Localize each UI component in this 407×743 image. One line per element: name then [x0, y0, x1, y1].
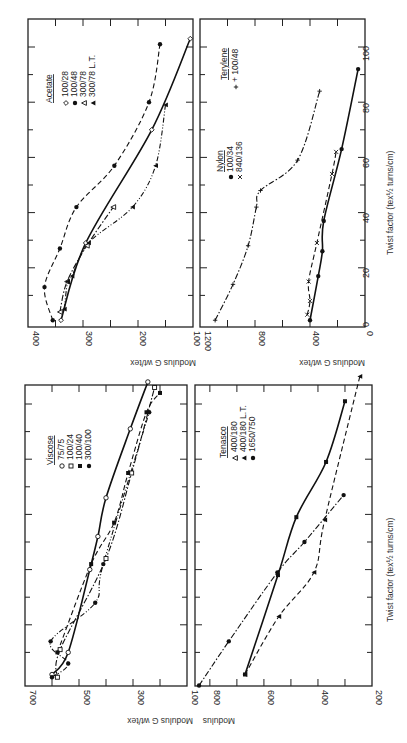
nylon-ytick: 400 — [311, 331, 321, 346]
data-point-marker — [104, 496, 108, 500]
legend-marker-icon — [229, 175, 233, 179]
series-curve — [56, 387, 155, 677]
data-point-marker — [101, 562, 105, 566]
nylon-legend: Nylon 100/34 840/136 Terylene + 100/48 — [215, 48, 244, 172]
tenasco-xlabel: Twist factor (tex½ turns/cm) — [385, 517, 395, 622]
legend-entry: 300/78 L.T. — [87, 55, 97, 97]
legend-marker-icon — [82, 101, 87, 106]
data-point-marker — [243, 672, 247, 676]
data-point-marker — [320, 249, 324, 253]
data-point-marker — [147, 410, 151, 414]
legend-marker-icon — [91, 101, 96, 106]
data-point-marker — [58, 310, 63, 315]
legend-title: Tenasco — [218, 426, 228, 458]
data-point-marker — [246, 244, 250, 248]
data-point-marker — [322, 219, 326, 223]
viscose-ytick: 700 — [28, 690, 38, 705]
acetate-ylabel: Modulus G wt/tex — [130, 358, 196, 368]
tenasco-ytick: 200 — [374, 690, 384, 705]
legend-marker-icon — [238, 175, 242, 179]
data-point-marker — [50, 675, 54, 679]
nylon-ylabel: Modulus G wt/tex — [299, 358, 365, 368]
acetate-ytick: 100 — [192, 331, 202, 346]
tenasco-ytick: 600 — [266, 690, 276, 705]
legend-marker-icon — [233, 456, 238, 461]
data-point-marker — [146, 380, 150, 384]
tenasco-ytick: 800 — [212, 690, 222, 705]
data-point-marker — [96, 534, 100, 538]
nylon-ytick: 800 — [257, 331, 267, 346]
data-point-marker — [302, 540, 306, 544]
axis-ticks — [25, 19, 372, 686]
data-point-marker — [213, 318, 217, 322]
data-point-marker — [89, 562, 93, 566]
viscose-legend: Viscose 75/75 100/24 100/40 300/100 — [45, 429, 93, 465]
data-point-marker — [343, 399, 347, 403]
legend-marker-icon — [69, 464, 73, 468]
viscose-ytick: 100 — [190, 690, 200, 705]
nylon-xtick: 80 — [361, 103, 371, 113]
tenasco-ylabel: Modulus — [203, 716, 235, 726]
legend-marker-icon — [78, 464, 82, 468]
nylon-xlabel: Twist factor (tex½ turns/cm) — [385, 150, 395, 255]
legend-title: Nylon — [215, 150, 225, 172]
acetate-panel-frame — [28, 19, 193, 327]
data-point-marker — [316, 274, 320, 278]
data-point-marker — [55, 675, 59, 679]
data-point-marker — [74, 205, 78, 209]
legend-marker-icon — [242, 456, 247, 461]
data-point-marker — [308, 318, 312, 322]
data-point-marker — [147, 100, 151, 104]
data-point-marker — [294, 515, 298, 519]
data-point-marker — [356, 67, 360, 71]
data-point-marker — [312, 570, 317, 575]
tenasco-legend: Tenasco 400/180 400/180 L.T. 1650/750 — [218, 405, 257, 458]
acetate-ytick: 200 — [138, 331, 148, 346]
viscose-ylabel: Modulus G wt/tex — [127, 716, 193, 726]
legend-entry: 300/100 — [83, 429, 93, 460]
viscose-ytick: 500 — [82, 690, 92, 705]
legend-title: Acetate — [44, 74, 54, 103]
legend-marker-icon — [73, 101, 77, 105]
acetate-legend: Acetate 100/28 100/48 300/78 300/78 L.T. — [44, 55, 97, 103]
series-curve — [215, 91, 320, 320]
data-point-marker — [197, 683, 201, 687]
viscose-ytick: 300 — [136, 690, 146, 705]
data-point-marker — [324, 460, 328, 464]
series-curve — [245, 376, 360, 674]
series-curve — [310, 69, 358, 320]
data-point-marker — [59, 318, 64, 323]
acetate-ytick: 400 — [31, 331, 41, 346]
data-point-marker — [42, 285, 46, 289]
data-point-marker — [188, 36, 193, 41]
nylon-xtick: 0 — [361, 322, 371, 327]
data-point-marker — [55, 650, 59, 654]
data-point-marker — [112, 163, 116, 167]
data-point-marker — [93, 601, 97, 605]
legend-marker-icon — [87, 464, 91, 468]
nylon-xticks: 0 20 40 60 80 100 — [361, 46, 371, 327]
data-point-marker — [227, 639, 231, 643]
legend-marker-icon — [60, 464, 64, 468]
data-point-marker — [153, 385, 157, 389]
data-point-marker — [58, 246, 62, 250]
legend-marker-icon — [64, 101, 69, 106]
data-point-marker — [104, 557, 108, 561]
data-point-marker — [276, 573, 280, 577]
data-point-marker — [317, 89, 321, 93]
data-point-marker — [339, 147, 343, 151]
tenasco-yticks: 800 600 400 200 — [212, 690, 384, 705]
acetate-yticks: 400 300 200 100 — [31, 331, 202, 346]
legend-marker-icon — [234, 85, 238, 89]
data-point-marker — [88, 567, 92, 571]
series-curve — [57, 393, 160, 652]
data-point-marker — [48, 639, 52, 643]
data-point-marker — [158, 391, 162, 395]
data-point-marker — [66, 661, 70, 665]
acetate-ytick: 300 — [84, 331, 94, 346]
nylon-xtick: 20 — [361, 268, 371, 278]
legend-title: Viscose — [45, 435, 55, 465]
data-point-marker — [231, 282, 235, 286]
figure-canvas: 400 300 200 100 1200 800 400 0 700 500 3… — [0, 0, 407, 743]
data-point-marker — [126, 471, 130, 475]
